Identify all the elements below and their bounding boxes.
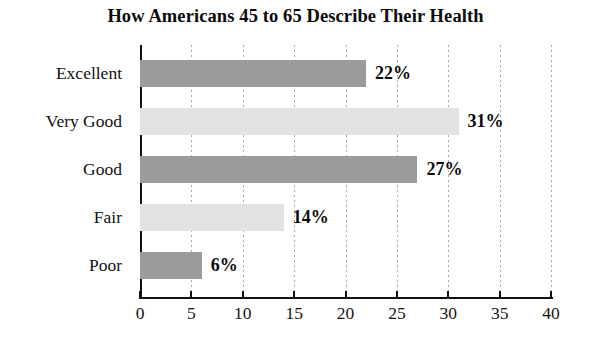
category-label-excellent: Excellent xyxy=(0,60,131,87)
category-label-fair: Fair xyxy=(0,204,131,231)
chart-title: How Americans 45 to 65 Describe Their He… xyxy=(0,6,591,27)
bar-value-label-good: 27% xyxy=(426,156,462,183)
bar-value-label-poor: 6% xyxy=(211,252,238,279)
x-tick-mark-0 xyxy=(139,291,141,299)
x-tick-label-10: 10 xyxy=(223,303,263,324)
chart-figure: How Americans 45 to 65 Describe Their He… xyxy=(0,0,591,341)
bar-good xyxy=(140,156,417,183)
x-tick-mark-15 xyxy=(293,291,295,299)
x-tick-mark-25 xyxy=(396,291,398,299)
bar-value-label-excellent: 22% xyxy=(375,60,411,87)
x-tick-mark-35 xyxy=(499,291,501,299)
bar-value-label-very-good: 31% xyxy=(468,108,504,135)
x-tick-label-35: 35 xyxy=(480,303,520,324)
category-label-good: Good xyxy=(0,156,131,183)
x-tick-mark-30 xyxy=(447,291,449,299)
x-tick-label-0: 0 xyxy=(120,303,160,324)
x-tick-mark-20 xyxy=(345,291,347,299)
x-tick-label-30: 30 xyxy=(428,303,468,324)
x-tick-label-5: 5 xyxy=(171,303,211,324)
bar-fair xyxy=(140,204,284,231)
bar-poor xyxy=(140,252,202,279)
x-tick-label-40: 40 xyxy=(531,303,571,324)
category-label-poor: Poor xyxy=(0,252,131,279)
x-tick-mark-40 xyxy=(550,291,552,299)
x-tick-label-20: 20 xyxy=(326,303,366,324)
bar-very-good xyxy=(140,108,459,135)
x-tick-label-15: 15 xyxy=(274,303,314,324)
bar-value-label-fair: 14% xyxy=(293,204,329,231)
gridline-35 xyxy=(500,45,501,298)
x-tick-mark-10 xyxy=(242,291,244,299)
x-tick-label-25: 25 xyxy=(377,303,417,324)
x-tick-mark-5 xyxy=(190,291,192,299)
gridline-40 xyxy=(551,45,552,298)
category-label-very-good: Very Good xyxy=(0,108,131,135)
bar-excellent xyxy=(140,60,366,87)
x-axis-line xyxy=(140,297,553,299)
